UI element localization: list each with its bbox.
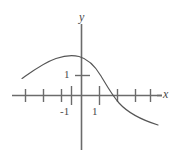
x-tick-label-one: 1 — [92, 106, 98, 117]
curve-path — [22, 56, 158, 125]
x-axis-label: x — [163, 88, 168, 100]
x-tick-label-minus-one: -1 — [60, 106, 69, 117]
y-tick-label-one: 1 — [64, 69, 70, 80]
y-axis-label: y — [79, 11, 84, 23]
math-graph-figure: y x 1 -1 1 — [0, 0, 177, 163]
plot-area — [0, 0, 177, 163]
